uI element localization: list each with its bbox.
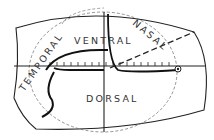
label-nasal: NASAL xyxy=(131,17,171,53)
retina-diagram: TEMPORAL VENTRAL NASAL DORSAL xyxy=(0,0,214,140)
optic-disc-center xyxy=(177,68,179,70)
dorsal-lower-curve xyxy=(54,68,104,70)
label-dorsal: DORSAL xyxy=(86,93,139,104)
ventral-boundary-curve xyxy=(46,50,108,70)
retina-outline xyxy=(14,16,206,129)
temporal-boundary-curve xyxy=(42,72,54,117)
label-ventral: VENTRAL xyxy=(74,35,133,46)
tick-marks xyxy=(50,62,169,66)
diagram-svg: TEMPORAL VENTRAL NASAL DORSAL xyxy=(0,0,214,140)
